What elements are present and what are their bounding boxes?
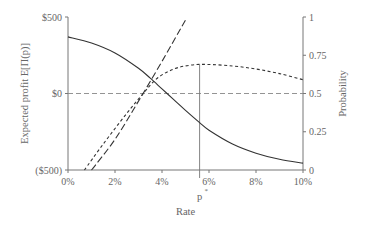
- right-axis-title: Probability: [337, 69, 348, 116]
- left-tick-label: $500: [42, 12, 62, 23]
- right-tick-label: 0.75: [309, 50, 327, 61]
- x-tick-label: 6%: [202, 176, 215, 187]
- p-star-label: p: [197, 191, 202, 202]
- x-tick-label: 4%: [155, 176, 168, 187]
- x-tick-label: 2%: [108, 176, 121, 187]
- right-tick-label: 0: [309, 165, 314, 176]
- series-group: [68, 20, 303, 178]
- axes: [65, 17, 306, 173]
- p-star-superscript: *: [205, 187, 209, 195]
- x-axis-title: Rate: [176, 206, 196, 217]
- right-tick-label: 0.5: [309, 88, 322, 99]
- right-tick-label: 1: [309, 12, 314, 23]
- x-tick-label: 10%: [294, 176, 312, 187]
- x-tick-label: 8%: [249, 176, 262, 187]
- right-tick-label: 0.25: [309, 126, 327, 137]
- chart: $500$0($500)10.750.50.2500%2%4%6%8%10%Ex…: [0, 0, 366, 225]
- x-tick-label: 0%: [61, 176, 74, 187]
- expected-profit-curve: [68, 37, 303, 163]
- left-axis-title: Expected profit E[Π(p)]: [19, 43, 31, 144]
- left-tick-label: ($500): [35, 165, 62, 177]
- left-tick-label: $0: [52, 88, 62, 99]
- probability-long-dash-curve: [92, 20, 186, 170]
